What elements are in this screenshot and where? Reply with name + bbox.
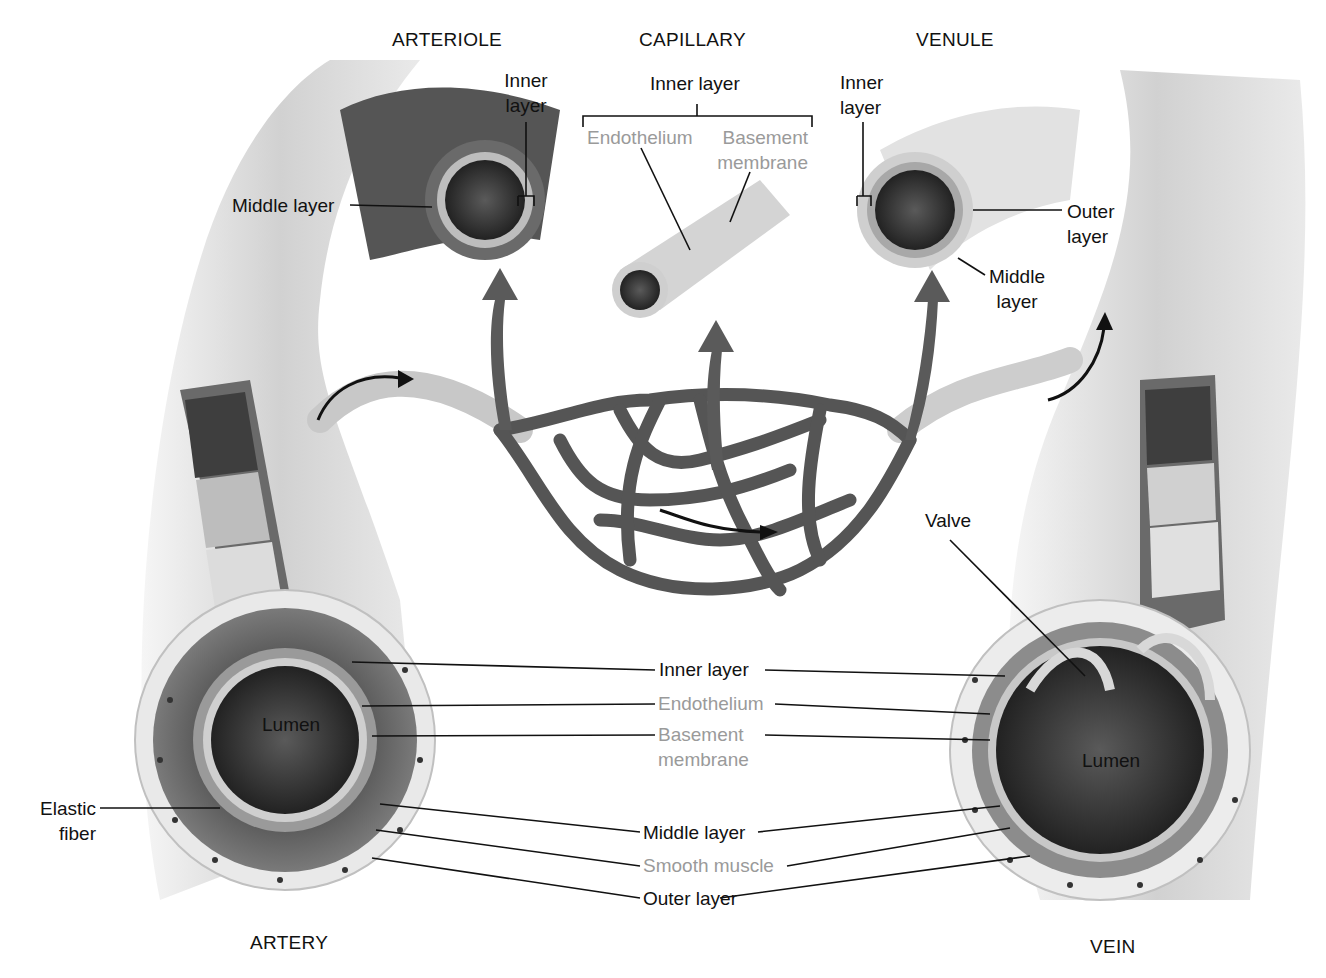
flow-up-arrows xyxy=(482,268,950,470)
artery-lumen-label: Lumen xyxy=(262,712,320,737)
venule-middle-layer-label: Middle layer xyxy=(986,264,1048,314)
shared-basement-line2: membrane xyxy=(658,747,749,772)
elastic-line2: fiber xyxy=(30,821,96,846)
capillary-inner-layer-label: Inner layer xyxy=(650,71,740,96)
title-vein: VEIN xyxy=(1090,934,1136,959)
venule-middle-line2: layer xyxy=(986,289,1048,314)
shared-basement-line1: Basement xyxy=(658,722,749,747)
title-artery: ARTERY xyxy=(250,930,328,955)
elastic-line1: Elastic xyxy=(30,796,96,821)
capillary-basement-line1: Basement xyxy=(700,125,808,150)
venule-inner-line2: layer xyxy=(840,95,883,120)
arteriole-inner-line1: Inner xyxy=(500,68,552,93)
title-venule: VENULE xyxy=(916,27,994,52)
title-capillary: CAPILLARY xyxy=(639,27,746,52)
shared-middle-layer-label: Middle layer xyxy=(643,820,745,845)
venule-outer-line1: Outer xyxy=(1067,199,1115,224)
shared-smooth-muscle-label: Smooth muscle xyxy=(643,853,774,878)
venule-outer-layer-label: Outer layer xyxy=(1067,199,1115,249)
arteriole-inner-line2: layer xyxy=(500,93,552,118)
shared-inner-layer-label: Inner layer xyxy=(659,657,749,682)
vein-valve-label: Valve xyxy=(925,508,971,533)
shared-endothelium-label: Endothelium xyxy=(658,691,764,716)
venule-drawing xyxy=(857,106,1080,270)
venule-middle-line1: Middle xyxy=(986,264,1048,289)
capillary-bed xyxy=(500,395,910,590)
capillary-basement-membrane-label: Basement membrane xyxy=(700,125,808,175)
title-arteriole: ARTERIOLE xyxy=(392,27,502,52)
capillary-drawing xyxy=(612,180,790,318)
venule-outer-line2: layer xyxy=(1067,224,1115,249)
venule-inner-line1: Inner xyxy=(840,70,883,95)
shared-outer-layer-label: Outer layer xyxy=(643,886,737,911)
capillary-endothelium-label: Endothelium xyxy=(587,125,693,150)
arteriole-inner-layer-label: Inner layer xyxy=(500,68,552,118)
venule-inner-layer-label: Inner layer xyxy=(840,70,883,120)
arteriole-middle-layer-label: Middle layer xyxy=(232,193,334,218)
artery-elastic-fiber-label: Elastic fiber xyxy=(30,796,96,846)
capillary-basement-line2: membrane xyxy=(700,150,808,175)
shared-basement-membrane-label: Basement membrane xyxy=(658,722,749,772)
vein-lumen-label: Lumen xyxy=(1082,748,1140,773)
